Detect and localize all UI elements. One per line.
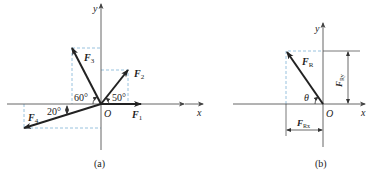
component-frx-label: FRx bbox=[296, 118, 310, 129]
figure-b: x y x FR θ O FRy FRx (b) bbox=[185, 23, 366, 170]
force-f2-label: F2 bbox=[133, 68, 145, 81]
angle-label-theta: θ bbox=[304, 92, 309, 103]
figure-a: y 50° 60° 20° O F1 F2 F3 F4 (a) bbox=[7, 3, 184, 170]
origin-label-b: O bbox=[326, 108, 333, 119]
angle-arc-theta bbox=[315, 97, 318, 104]
dashed-components-a bbox=[24, 48, 128, 128]
origin-label-a: O bbox=[104, 108, 111, 119]
angle-label-60: 60° bbox=[74, 92, 88, 103]
force-f3-label: F3 bbox=[83, 52, 95, 65]
angle-arc-60 bbox=[93, 97, 97, 104]
x-axis-label-b: x bbox=[360, 107, 366, 118]
force-f1-label: F1 bbox=[131, 109, 143, 122]
force-diagrams: y 50° 60° 20° O F1 F2 F3 F4 (a) x bbox=[0, 0, 370, 181]
caption-b: (b) bbox=[315, 158, 327, 170]
angle-label-50: 50° bbox=[112, 92, 126, 103]
angle-label-20: 20° bbox=[47, 106, 61, 117]
resultant-force-label: FR bbox=[301, 56, 314, 69]
y-axis-label-a: y bbox=[92, 3, 98, 14]
x-axis-label-a: x bbox=[196, 107, 202, 118]
force-f4-label: F4 bbox=[27, 112, 39, 125]
component-fry-label: FRy bbox=[334, 74, 345, 88]
y-axis-label-b: y bbox=[314, 23, 320, 34]
caption-a: (a) bbox=[94, 158, 105, 170]
